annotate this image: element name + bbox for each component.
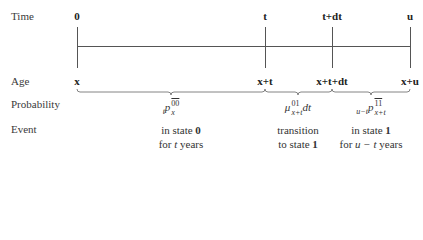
event-transition: transition to state 1 [277, 123, 319, 151]
event2-line1: in state [351, 124, 385, 136]
event0-line1: in state [161, 124, 195, 136]
prob2-sub: x+t [374, 108, 385, 117]
prob2-prefix: u−t [356, 107, 368, 116]
prob1-symbol: μ [285, 101, 291, 113]
event0-years: years [177, 138, 203, 150]
event2-state: 1 [385, 124, 391, 136]
event1-line2: to state [278, 138, 312, 150]
event2-duration: u − t [355, 138, 376, 150]
event2-years: years [377, 138, 403, 150]
prob0-symbol: p [165, 101, 171, 113]
brace-t-tdt [265, 89, 332, 95]
probability-transition: μ01x+tdt [285, 99, 311, 117]
event0-state: 0 [195, 124, 201, 136]
event1-state: 1 [312, 138, 318, 150]
event-in-state-1: in state 1 for u − t years [339, 123, 402, 151]
probability-survival-0: tp00x [163, 99, 180, 117]
prob1-suffix: dt [303, 101, 312, 113]
brace-0-t [77, 89, 265, 95]
event0-line2: for [159, 138, 175, 150]
prob2-sup: 11 [374, 99, 385, 108]
probability-survival-1: u−tp11x+t [356, 99, 385, 117]
prob0-sup: 00 [171, 99, 179, 108]
prob2-symbol: p [368, 101, 374, 113]
prob1-sub: x+t [291, 108, 302, 117]
prob0-sub: x [171, 108, 179, 117]
event-in-state-0: in state 0 for t years [159, 123, 204, 151]
event2-line2: for [339, 138, 355, 150]
prob1-sup: 01 [291, 99, 302, 108]
event1-line1: transition [277, 124, 319, 136]
brace-tdt-u [332, 89, 410, 95]
